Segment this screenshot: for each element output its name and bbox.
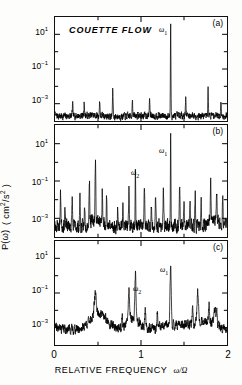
panel-tag-c: (c) <box>213 242 223 252</box>
panel-b: (b) ω1 ω2 <box>54 124 228 238</box>
panel-tag-a: (a) <box>213 18 223 28</box>
ytick-a-3: 10−3 <box>14 94 48 104</box>
x-axis-label-symbol: ω/Ω <box>174 366 188 375</box>
panel-a: (a) COUETTE FLOW ω1 <box>54 16 228 122</box>
peak-label-omega1-b: ω1 <box>159 147 167 157</box>
xtick-2: 2 <box>220 350 236 360</box>
ytick-c-1: 101 <box>14 250 48 260</box>
xtick-1: 1 <box>133 350 149 360</box>
peak-label-omega1-a: ω1 <box>159 26 167 36</box>
panel-tag-b: (b) <box>213 126 223 136</box>
panel-c: (c) ω1 ω2 <box>54 240 228 346</box>
figure-canvas: P(ω) ( cm2/s2 ) 101 10−1 10−3 101 10−1 1… <box>0 0 242 385</box>
ytick-b-2: 10−1 <box>14 176 48 186</box>
ytick-b-3: 10−3 <box>14 213 48 223</box>
y-axis-label-units: ( cm2/s2 ) <box>0 184 11 225</box>
peak-label-omega2-b: ω2 <box>131 169 139 179</box>
peak-label-omega2-c: ω2 <box>133 285 141 295</box>
peak-label-omega1-c: ω1 <box>160 266 168 276</box>
ytick-a-1: 101 <box>14 26 48 36</box>
xtick-0: 0 <box>46 350 62 360</box>
ytick-b-1: 101 <box>14 138 48 148</box>
ytick-c-3: 10−3 <box>14 318 48 328</box>
ytick-a-2: 10−1 <box>14 60 48 70</box>
ytick-c-2: 10−1 <box>14 284 48 294</box>
panel-b-plot <box>55 125 227 237</box>
y-axis-label-main: P(ω) <box>0 230 10 250</box>
plot-annotation-couette-flow: COUETTE FLOW <box>69 25 152 35</box>
x-axis-label-text: RELATIVE FREQUENCY <box>55 365 168 375</box>
x-axis-label: RELATIVE FREQUENCY ω/Ω <box>0 365 242 375</box>
